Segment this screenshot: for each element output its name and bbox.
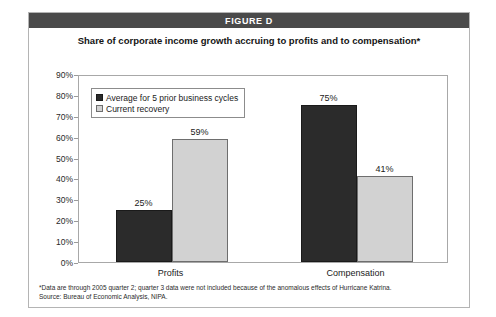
figure-subtitle: Share of corporate income growth accruin… (29, 35, 469, 46)
chart-legend: Average for 5 prior business cyclesCurre… (91, 88, 245, 118)
bar-value-label: 59% (172, 127, 228, 137)
footnotes: *Data are through 2005 quarter 2; quarte… (39, 283, 463, 301)
y-axis-tick-label: 40% (29, 174, 73, 184)
y-axis-tick-label: 20% (29, 216, 73, 226)
y-axis-tick-label: 0% (29, 258, 73, 268)
bar-column: 75% (301, 76, 357, 262)
y-axis-tick-label: 90% (29, 70, 73, 80)
bar-compensation-series2 (357, 176, 413, 262)
bar-compensation-series1 (301, 105, 357, 262)
x-axis-category-label: Profits (78, 268, 263, 278)
legend-swatch-icon (96, 105, 103, 112)
bar-value-label: 75% (301, 93, 357, 103)
bar-profits-series1 (116, 210, 172, 262)
bar-value-label: 25% (116, 198, 172, 208)
figure-header-bar: FIGURE D (29, 13, 469, 28)
footnote-source: Source: Bureau of Economic Analysis, NIP… (39, 292, 463, 301)
chart-region: 0%10%20%30%40%50%60%70%80%90% 25%59%75%4… (29, 55, 469, 280)
bar-group: 75%41% (264, 76, 449, 262)
y-axis-tick-label: 50% (29, 154, 73, 164)
legend-item-label: Average for 5 prior business cycles (106, 93, 238, 103)
legend-item: Current recovery (96, 103, 238, 114)
bar-value-label: 41% (357, 164, 413, 174)
y-axis-tick-mark (74, 263, 78, 264)
bar-profits-series2 (172, 139, 228, 262)
y-axis-tick-label: 30% (29, 195, 73, 205)
x-axis-category-label: Compensation (263, 268, 448, 278)
y-axis-tick-label: 10% (29, 237, 73, 247)
legend-swatch-icon (96, 94, 103, 101)
legend-item-label: Current recovery (106, 104, 169, 114)
y-axis-tick-label: 70% (29, 112, 73, 122)
figure-card: FIGURE D Share of corporate income growt… (28, 12, 470, 308)
footnote-data-note: *Data are through 2005 quarter 2; quarte… (39, 283, 463, 292)
bar-column: 41% (357, 76, 413, 262)
y-axis-tick-label: 60% (29, 133, 73, 143)
legend-item: Average for 5 prior business cycles (96, 92, 238, 103)
y-axis-tick-label: 80% (29, 91, 73, 101)
figure-header-label: FIGURE D (225, 16, 273, 26)
